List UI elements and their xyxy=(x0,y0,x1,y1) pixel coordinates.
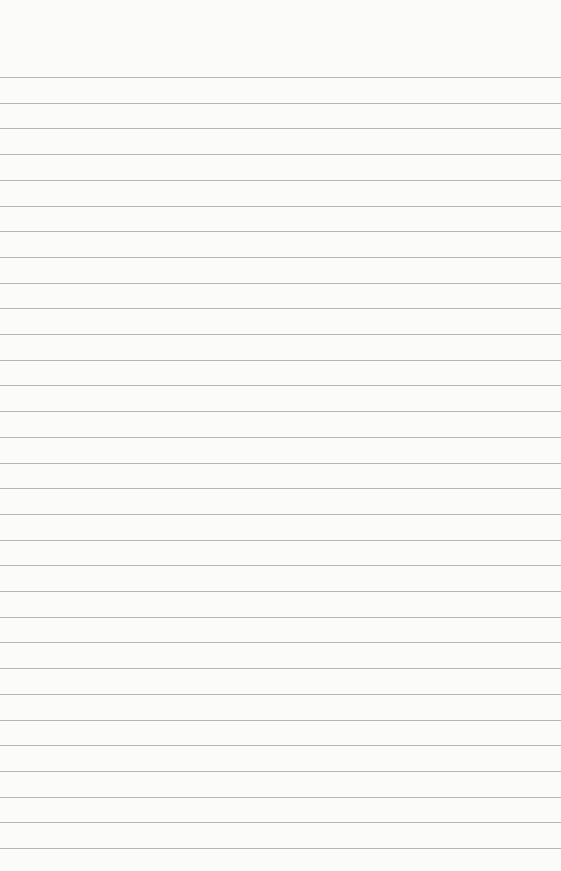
ruled-line xyxy=(0,540,561,541)
ruled-line xyxy=(0,206,561,207)
ruled-line xyxy=(0,591,561,592)
ruled-line xyxy=(0,694,561,695)
ruled-line xyxy=(0,514,561,515)
ruled-line xyxy=(0,488,561,489)
ruled-line xyxy=(0,565,561,566)
ruled-line xyxy=(0,180,561,181)
ruled-line xyxy=(0,385,561,386)
ruled-line xyxy=(0,103,561,104)
ruled-line xyxy=(0,334,561,335)
lined-paper-sheet xyxy=(0,0,561,871)
ruled-line xyxy=(0,668,561,669)
ruled-line xyxy=(0,360,561,361)
ruled-line xyxy=(0,617,561,618)
ruled-line xyxy=(0,463,561,464)
ruled-line xyxy=(0,308,561,309)
ruled-line xyxy=(0,77,561,78)
ruled-line xyxy=(0,154,561,155)
ruled-line xyxy=(0,642,561,643)
ruled-line xyxy=(0,720,561,721)
ruled-line xyxy=(0,848,561,849)
ruled-line xyxy=(0,257,561,258)
ruled-line xyxy=(0,797,561,798)
ruled-line xyxy=(0,128,561,129)
ruled-line xyxy=(0,745,561,746)
ruled-line xyxy=(0,771,561,772)
ruled-line xyxy=(0,411,561,412)
ruled-line xyxy=(0,231,561,232)
ruled-line xyxy=(0,822,561,823)
ruled-line xyxy=(0,283,561,284)
ruled-line xyxy=(0,437,561,438)
